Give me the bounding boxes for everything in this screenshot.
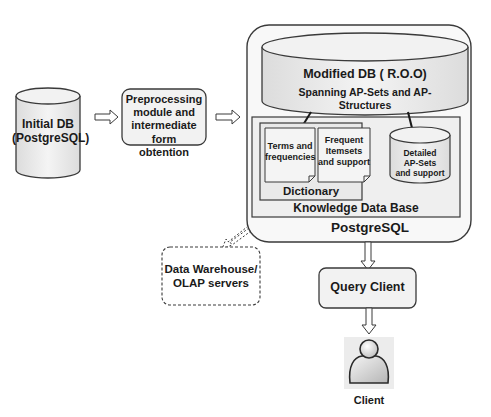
detailed-line2: AP-Sets: [388, 158, 452, 168]
terms-line1: Terms and: [265, 141, 315, 152]
terms-label: Terms and frequencies: [265, 141, 315, 163]
preprocessing-label: Preprocessing module and intermediate fo…: [118, 93, 210, 159]
user-icon: [344, 337, 394, 389]
knowledge-data-base-label: Knowledge Data Base: [252, 201, 460, 215]
data-warehouse-label: Data Warehouse/ OLAP servers: [162, 263, 260, 291]
modified-db-subtitle: Spanning AP-Sets and AP- Structures: [262, 86, 468, 111]
arrow-postgres-to-warehouse: [222, 227, 251, 249]
itemsets-line1: Frequent: [318, 135, 370, 146]
initial-db-line2: (PostgreSQL): [12, 131, 84, 145]
arrow-postgres-to-query-client: [361, 242, 375, 270]
preprocessing-line1: Preprocessing: [118, 93, 210, 106]
detailed-apsets-label: Detailed AP-Sets and support: [388, 148, 452, 179]
itemsets-line3: and support: [318, 157, 370, 168]
modified-db-subtitle-line1: Spanning AP-Sets and AP-: [262, 86, 468, 99]
client-label: Client: [339, 394, 399, 407]
data-warehouse-line2: OLAP servers: [162, 277, 260, 291]
query-client-label: Query Client: [319, 280, 416, 295]
data-warehouse-line1: Data Warehouse/: [162, 263, 260, 277]
initial-db-line1: Initial DB: [12, 117, 84, 131]
arrow-initial-to-preprocessing: [95, 110, 118, 124]
modified-db-subtitle-line2: Structures: [262, 99, 468, 112]
itemsets-label: Frequent Itemsets and support: [318, 135, 370, 167]
arrow-preprocessing-to-postgres: [216, 110, 240, 124]
preprocessing-line4: obtention: [118, 146, 210, 159]
preprocessing-line2: module and: [118, 106, 210, 119]
detailed-line1: Detailed: [388, 148, 452, 158]
dictionary-label: Dictionary: [260, 185, 362, 199]
detailed-line3: and support: [388, 168, 452, 178]
arrow-query-to-client: [362, 308, 376, 334]
postgresql-label: PostgreSQL: [300, 220, 440, 236]
preprocessing-line3: intermediate form: [118, 119, 210, 145]
modified-db-title: Modified DB ( R.O.O): [262, 67, 468, 82]
initial-db-label: Initial DB (PostgreSQL): [12, 117, 84, 146]
itemsets-line2: Itemsets: [318, 146, 370, 157]
terms-line2: frequencies: [265, 152, 315, 163]
